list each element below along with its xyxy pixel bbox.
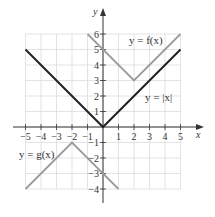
x-tick-label: −5 bbox=[20, 131, 31, 142]
x-tick-label: 3 bbox=[147, 131, 152, 142]
x-tick-label: −3 bbox=[51, 131, 62, 142]
y-tick-label: −4 bbox=[88, 184, 99, 195]
y-tick-label: 6 bbox=[94, 29, 99, 40]
y-axis-label: y bbox=[92, 6, 98, 17]
x-axis-label: x bbox=[195, 129, 201, 140]
function-graph: −5−4−3−2−112345654321−1−2−3−4 x y y = f(… bbox=[0, 0, 215, 217]
x-tick-label: −4 bbox=[36, 131, 47, 142]
y-tick-label: 3 bbox=[94, 75, 99, 86]
y-tick-label: 2 bbox=[94, 91, 99, 102]
g-curve-label: y = g(x) bbox=[19, 148, 55, 161]
x-tick-label: 5 bbox=[178, 131, 183, 142]
x-tick-label: 4 bbox=[163, 131, 168, 142]
abs-curve-label: y = |x| bbox=[145, 91, 172, 103]
x-tick-label: 1 bbox=[116, 131, 121, 142]
y-tick-label: 5 bbox=[94, 44, 99, 55]
f-curve-label: y = f(x) bbox=[129, 34, 163, 47]
y-tick-label: −1 bbox=[88, 137, 99, 148]
y-tick-label: 4 bbox=[94, 60, 99, 71]
y-tick-label: 1 bbox=[94, 106, 99, 117]
x-tick-label: 2 bbox=[132, 131, 137, 142]
x-tick-label: −2 bbox=[67, 131, 78, 142]
y-tick-label: −3 bbox=[88, 168, 99, 179]
y-tick-label: −2 bbox=[88, 153, 99, 164]
